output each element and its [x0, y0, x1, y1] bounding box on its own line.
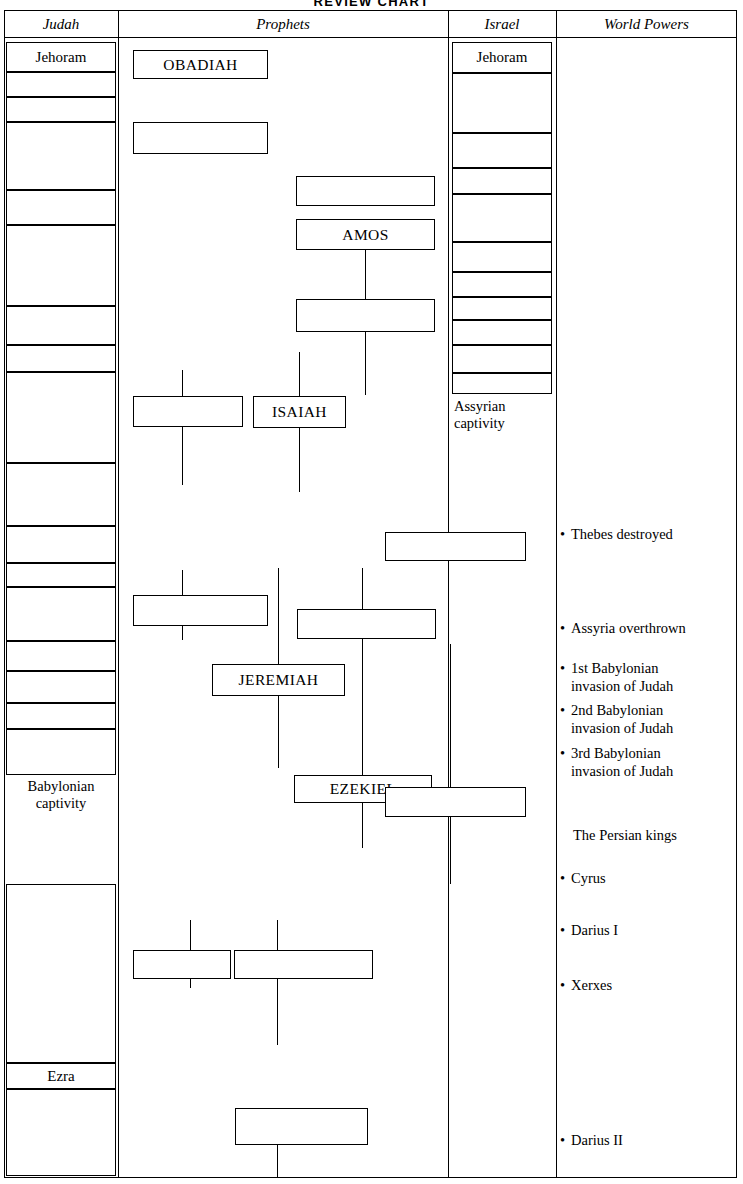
bullet-icon: •	[560, 976, 565, 994]
captivity-line-1: Assyrian	[454, 398, 506, 414]
bullet-icon: •	[560, 921, 565, 939]
prophet-lifeline-malachi	[277, 1140, 278, 1178]
judah-ezra-label: Ezra	[7, 1064, 115, 1088]
table-row	[6, 72, 116, 97]
captivity-line-2: captivity	[454, 415, 505, 431]
prophet-box-unnamed-5	[385, 532, 526, 561]
judah-king-label: Jehoram	[7, 43, 115, 71]
table-row	[6, 641, 116, 671]
world-power-event: • 2nd Babylonian invasion of Judah	[560, 701, 735, 737]
table-row	[452, 73, 552, 133]
prophet-box-amos: AMOS	[296, 219, 435, 250]
table-row	[6, 345, 116, 372]
event-text: Cyrus	[571, 869, 735, 887]
table-row	[6, 671, 116, 703]
table-row	[6, 703, 116, 729]
table-row	[452, 168, 552, 194]
column-header-judah: Judah	[4, 13, 118, 35]
event-text-cont: invasion of Judah	[571, 762, 735, 780]
world-power-event: • 1st Babylonian invasion of Judah	[560, 659, 735, 695]
column-header-world-powers: World Powers	[556, 13, 737, 35]
prophet-box-unnamed-4	[133, 396, 243, 427]
event-text-cont: invasion of Judah	[571, 719, 735, 737]
table-row	[452, 133, 552, 168]
table-row	[452, 320, 552, 345]
prophet-lifeline-unnamed-a	[182, 370, 183, 485]
table-row	[452, 345, 552, 373]
prophet-box-unnamed-8	[385, 787, 526, 817]
table-row	[452, 194, 552, 242]
bullet-icon: •	[560, 701, 565, 719]
column-divider-judah-prophets	[118, 10, 119, 1178]
prophet-box-obadiah: OBADIAH	[133, 50, 268, 79]
event-text: Assyria overthrown	[571, 619, 735, 637]
world-power-event: • 3rd Babylonian invasion of Judah	[560, 744, 735, 780]
judah-row-jehoram: Jehoram	[6, 42, 116, 72]
table-row	[452, 373, 552, 394]
world-power-event: • Thebes destroyed	[560, 525, 735, 543]
prophet-label-amos: AMOS	[297, 220, 434, 249]
captivity-line-2: captivity	[36, 795, 87, 811]
prophet-label-obadiah: OBADIAH	[134, 51, 267, 78]
prophet-box-unnamed-6	[133, 595, 268, 626]
prophet-box-isaiah: ISAIAH	[253, 396, 346, 428]
judah-babylonian-captivity: Babylonian captivity	[4, 778, 118, 812]
event-text: 3rd Babylonian	[571, 744, 735, 762]
table-row	[6, 372, 116, 463]
judah-row-ezra: Ezra	[6, 1063, 116, 1089]
prophet-label-isaiah: ISAIAH	[254, 397, 345, 427]
bullet-icon: •	[560, 744, 565, 762]
world-power-event: • Darius I	[560, 921, 735, 939]
table-row	[6, 563, 116, 587]
table-row	[6, 225, 116, 306]
table-row	[6, 729, 116, 775]
prophet-lifeline-zechariah	[277, 920, 278, 1045]
bullet-icon: •	[560, 659, 565, 677]
table-row	[6, 587, 116, 641]
world-power-event: • Darius II	[560, 1131, 735, 1149]
event-text-cont: invasion of Judah	[571, 677, 735, 695]
table-row	[6, 97, 116, 122]
table-row	[452, 272, 552, 297]
event-text: Darius II	[571, 1131, 735, 1149]
column-divider-israel-worldpowers	[556, 10, 557, 1178]
prophet-label-jeremiah: JEREMIAH	[213, 665, 344, 695]
israel-assyrian-captivity: Assyrian captivity	[450, 398, 558, 432]
event-text: Xerxes	[571, 976, 735, 994]
bullet-icon: •	[560, 869, 565, 887]
event-text: Darius I	[571, 921, 735, 939]
column-header-israel: Israel	[448, 13, 556, 35]
event-text: 2nd Babylonian	[571, 701, 735, 719]
prophet-box-unnamed-9	[133, 950, 231, 979]
event-text: Thebes destroyed	[571, 525, 735, 543]
israel-king-label: Jehoram	[453, 43, 551, 72]
prophet-box-unnamed-1	[133, 122, 268, 154]
header-separator-rule	[4, 37, 737, 38]
table-row	[6, 122, 116, 190]
israel-row-jehoram: Jehoram	[452, 42, 552, 73]
table-row	[6, 463, 116, 526]
prophet-box-unnamed-3	[296, 299, 435, 332]
world-power-group-heading: The Persian kings	[560, 826, 735, 844]
bullet-icon: •	[560, 1131, 565, 1149]
world-power-event: • Assyria overthrown	[560, 619, 735, 637]
column-divider-prophets-israel	[448, 10, 449, 1178]
prophet-box-unnamed-7	[297, 609, 436, 639]
table-row	[452, 242, 552, 272]
captivity-line-1: Babylonian	[28, 778, 95, 794]
page-title: REVIEW CHART	[0, 0, 743, 9]
table-row	[6, 306, 116, 345]
bullet-icon: •	[560, 619, 565, 637]
judah-row-post-exile	[6, 884, 116, 1063]
prophet-box-unnamed-10	[234, 950, 373, 979]
world-power-event: • Cyrus	[560, 869, 735, 887]
prophet-box-unnamed-2	[296, 176, 435, 206]
bullet-icon: •	[560, 525, 565, 543]
table-row	[6, 526, 116, 563]
prophet-lifeline-daniel	[450, 644, 451, 884]
table-row	[6, 190, 116, 225]
event-text: 1st Babylonian	[571, 659, 735, 677]
world-power-event: • Xerxes	[560, 976, 735, 994]
prophet-box-unnamed-11	[235, 1108, 368, 1145]
table-row	[6, 1089, 116, 1176]
